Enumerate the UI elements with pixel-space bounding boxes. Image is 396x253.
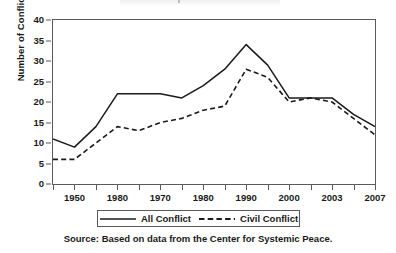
- y-tick-label: 15: [0, 118, 44, 128]
- series-line-all-conflict: [53, 45, 375, 148]
- y-tick-label: 25: [0, 77, 44, 87]
- legend-item-civil-conflict: Civil Conflict: [198, 213, 298, 224]
- y-tick-mark: [46, 184, 51, 185]
- x-tick-mark: [225, 185, 226, 190]
- x-tick-mark: [311, 185, 312, 190]
- x-tick-mark: [332, 185, 333, 190]
- x-tick-mark: [246, 185, 247, 190]
- x-tick-label: 1980: [180, 192, 226, 203]
- chart-legend: All ConflictCivil Conflict: [97, 210, 300, 227]
- cropped-title-dot: [178, 0, 180, 3]
- y-tick-mark: [46, 61, 51, 62]
- y-tick-mark: [46, 122, 51, 123]
- x-tick-mark: [53, 185, 54, 190]
- cropped-title-remnant: [120, 0, 280, 5]
- y-axis-ticks: 0510152025303540: [0, 19, 52, 185]
- x-tick-mark: [96, 185, 97, 190]
- y-tick-label: 40: [0, 15, 44, 25]
- y-tick-mark: [46, 102, 51, 103]
- x-tick-label: 1980: [94, 192, 140, 203]
- y-tick-label: 10: [0, 138, 44, 148]
- x-tick-mark: [375, 185, 376, 190]
- dashed-line-icon: [198, 215, 236, 223]
- y-tick-label: 35: [0, 36, 44, 46]
- x-tick-label: 2000: [266, 192, 312, 203]
- y-tick-mark: [46, 40, 51, 41]
- solid-line-icon: [99, 215, 137, 223]
- y-tick-label: 5: [0, 159, 44, 169]
- x-tick-mark: [117, 185, 118, 190]
- x-tick-label: 1950: [51, 192, 97, 203]
- x-tick-mark: [354, 185, 355, 190]
- x-tick-label: 2007: [352, 192, 396, 203]
- y-tick-mark: [46, 81, 51, 82]
- y-tick-mark: [46, 163, 51, 164]
- y-tick-label: 20: [0, 97, 44, 107]
- x-tick-label: 1970: [137, 192, 183, 203]
- x-axis-ticks: 19501980197019801990200020032007: [52, 185, 376, 209]
- series-line-civil-conflict: [53, 69, 375, 159]
- legend-label: All Conflict: [141, 213, 191, 224]
- x-tick-mark: [203, 185, 204, 190]
- x-tick-mark: [268, 185, 269, 190]
- source-note: Source: Based on data from the Center fo…: [0, 233, 396, 244]
- y-tick-mark: [46, 20, 51, 21]
- y-tick-label: 0: [0, 179, 44, 189]
- x-tick-label: 2003: [309, 192, 355, 203]
- y-tick-label: 30: [0, 56, 44, 66]
- conflict-trend-figure: Number of Conflicts 0510152025303540 195…: [0, 0, 396, 253]
- x-tick-mark: [182, 185, 183, 190]
- y-tick-mark: [46, 143, 51, 144]
- x-tick-label: 1990: [223, 192, 269, 203]
- legend-label: Civil Conflict: [240, 213, 298, 224]
- x-tick-mark: [289, 185, 290, 190]
- series-lines: [53, 20, 375, 184]
- x-tick-mark: [139, 185, 140, 190]
- legend-item-all-conflict: All Conflict: [99, 213, 191, 224]
- plot-area: [52, 19, 376, 185]
- x-tick-mark: [74, 185, 75, 190]
- x-tick-mark: [160, 185, 161, 190]
